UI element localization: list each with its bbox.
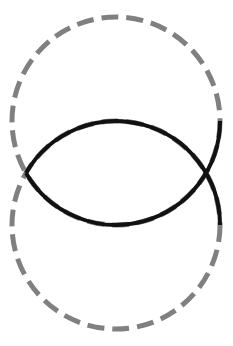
overlapping-circles-diagram (0, 0, 233, 346)
upper-solid-arc (26, 121, 220, 225)
lower-solid-arc (26, 121, 220, 225)
